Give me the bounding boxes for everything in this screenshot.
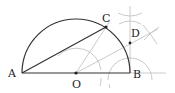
points [74,25,131,74]
chord-ac [22,27,106,73]
arc-around-o [58,48,101,70]
geometry-diagram: A B O C D [0,0,175,93]
cross-mark-right-1 [143,25,157,44]
label-d: D [131,27,140,40]
construction-lines [58,6,166,88]
oc-line [76,21,110,73]
point-o [74,71,77,74]
label-o: O [72,78,81,91]
label-c: C [102,12,110,25]
arc-around-b-left [109,84,110,88]
label-b: B [133,68,141,81]
label-a: A [7,67,17,80]
point-d [129,42,132,45]
arc-around-o-lower [100,78,101,86]
point-c [104,25,107,28]
